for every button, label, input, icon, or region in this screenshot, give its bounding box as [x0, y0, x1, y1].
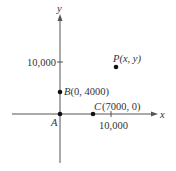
- x-axis-arrow-icon: [151, 112, 158, 117]
- y-axis-arrow-icon: [58, 14, 63, 21]
- point-b: [58, 90, 63, 95]
- point-p-label: P(x, y): [112, 53, 141, 65]
- point-a: [58, 112, 63, 117]
- point-p: [114, 65, 119, 70]
- x-axis-label: x: [159, 109, 165, 120]
- point-b-label: B(0, 4000): [64, 86, 109, 98]
- y-tick-label: 10,000: [27, 57, 56, 68]
- point-a-label: A: [50, 117, 58, 128]
- x-tick-label: 10,000: [99, 120, 128, 131]
- coordinate-diagram: y x 10,000 10,000 A B(0, 4000) C(7000, 0…: [0, 0, 176, 171]
- point-c-label: C(7000, 0): [94, 101, 141, 113]
- y-axis-label: y: [56, 3, 62, 14]
- point-c: [91, 112, 96, 117]
